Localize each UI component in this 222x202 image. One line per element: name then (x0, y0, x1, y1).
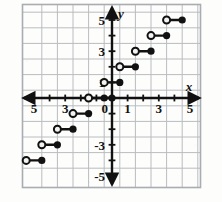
origin-label: 0 (102, 101, 109, 116)
open-endpoint (38, 141, 45, 148)
closed-endpoint (179, 16, 186, 23)
closed-endpoint (54, 141, 61, 148)
x-tick-label: 1 (124, 101, 131, 116)
x-axis-label: x (185, 79, 193, 94)
x-tick-label: 5 (31, 101, 38, 116)
y-tick-label: -5 (94, 169, 105, 184)
closed-endpoint (132, 63, 139, 70)
y-tick-label: 3 (99, 44, 106, 59)
open-endpoint (148, 32, 155, 39)
closed-endpoint (69, 126, 76, 133)
open-endpoint (101, 79, 108, 86)
y-axis-label: y (116, 6, 124, 21)
y-tick-label: 5 (99, 13, 106, 28)
open-endpoint (132, 48, 139, 55)
open-endpoint (116, 63, 123, 70)
y-tick-label: -3 (94, 138, 105, 153)
closed-endpoint (116, 79, 123, 86)
open-endpoint (23, 157, 30, 164)
open-endpoint (163, 17, 170, 24)
closed-endpoint (147, 48, 154, 55)
closed-endpoint (85, 110, 92, 117)
closed-endpoint (108, 94, 115, 101)
graph-figure: 530135531-3-5xy (0, 0, 222, 202)
closed-endpoint (38, 157, 45, 164)
coordinate-plane: 530135531-3-5xy (0, 0, 222, 202)
x-tick-label: 3 (62, 101, 69, 116)
open-endpoint (85, 95, 92, 102)
closed-endpoint (101, 94, 108, 101)
closed-endpoint (163, 32, 170, 39)
x-tick-label: 3 (156, 101, 163, 116)
x-tick-label: 5 (187, 101, 194, 116)
open-endpoint (70, 110, 77, 117)
open-endpoint (54, 126, 61, 133)
